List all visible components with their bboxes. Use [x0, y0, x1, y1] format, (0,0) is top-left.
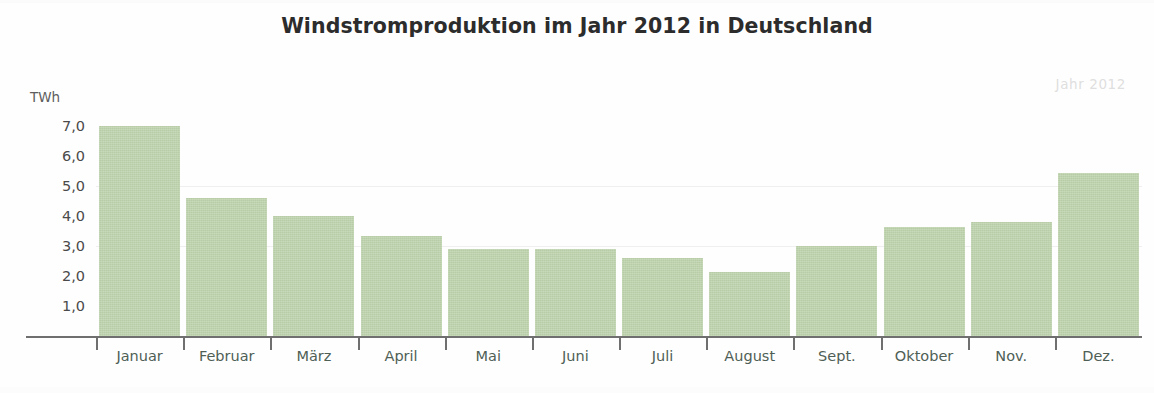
bar — [273, 216, 354, 336]
bar — [1058, 173, 1139, 337]
x-axis-label: Dez. — [1055, 348, 1142, 364]
bar-slot — [968, 96, 1055, 336]
x-axis-label: April — [358, 348, 445, 364]
bar-slot — [358, 96, 445, 336]
x-axis-label: Februar — [183, 348, 270, 364]
bar-slot — [532, 96, 619, 336]
chart-page: Windstromproduktion im Jahr 2012 in Deut… — [0, 0, 1154, 393]
bar-slot — [270, 96, 357, 336]
bar-group — [96, 96, 1142, 336]
bar — [884, 227, 965, 337]
bar — [971, 222, 1052, 336]
bar — [448, 249, 529, 336]
bar-slot — [1055, 96, 1142, 336]
x-axis-label: Nov. — [968, 348, 1055, 364]
y-axis-tick-label: 7,0 — [25, 118, 85, 134]
y-axis-tick-label: 5,0 — [25, 178, 85, 194]
x-axis-label: Januar — [96, 348, 183, 364]
x-axis-label: August — [706, 348, 793, 364]
x-axis-label: Oktober — [881, 348, 968, 364]
x-axis-label: Sept. — [793, 348, 880, 364]
bar — [99, 126, 180, 336]
bar-slot — [881, 96, 968, 336]
y-axis-tick-label: 2,0 — [25, 268, 85, 284]
bar-slot — [183, 96, 270, 336]
x-axis-label: Mai — [445, 348, 532, 364]
y-axis-tick-label: 6,0 — [25, 148, 85, 164]
bar — [709, 272, 790, 337]
bar — [361, 236, 442, 337]
bar-slot — [706, 96, 793, 336]
x-axis-label: März — [270, 348, 357, 364]
bar — [186, 198, 267, 336]
bar — [622, 258, 703, 336]
x-axis-label: Juni — [532, 348, 619, 364]
plot-area: 1,02,03,04,05,06,07,0 JanuarFebruarMärzA… — [0, 0, 1154, 393]
bar-slot — [445, 96, 532, 336]
bar-slot — [619, 96, 706, 336]
bar-slot — [96, 96, 183, 336]
bar — [796, 246, 877, 336]
y-axis-tick-label: 3,0 — [25, 238, 85, 254]
scan-edge-bottom — [0, 387, 1154, 393]
bar-slot — [793, 96, 880, 336]
x-axis-line — [26, 336, 1142, 338]
y-axis-tick-label: 1,0 — [25, 298, 85, 314]
y-axis-tick-label: 4,0 — [25, 208, 85, 224]
x-axis-label: Juli — [619, 348, 706, 364]
bar — [535, 249, 616, 336]
